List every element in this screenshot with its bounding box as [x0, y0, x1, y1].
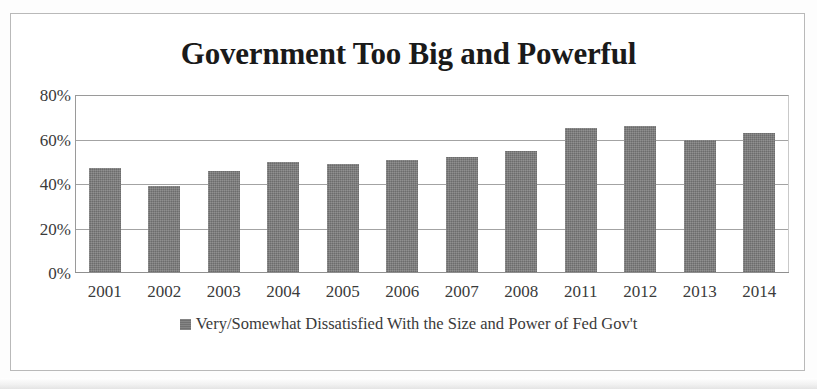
x-axis-labels: 2001200220032004200520062007200820112012… — [75, 278, 789, 302]
x-tick-label: 2001 — [75, 282, 135, 302]
y-tick-label: 0% — [13, 264, 71, 284]
x-tick-label: 2005 — [313, 282, 373, 302]
plot-border — [75, 95, 789, 273]
x-tick-label: 2014 — [730, 282, 790, 302]
y-tick-label: 60% — [13, 131, 71, 151]
y-tick-label: 80% — [13, 86, 71, 106]
legend-label: Very/Somewhat Dissatisfied With the Size… — [196, 314, 637, 334]
x-tick-label: 2004 — [254, 282, 314, 302]
x-tick-label: 2013 — [670, 282, 730, 302]
x-tick-label: 2003 — [194, 282, 254, 302]
x-axis-line — [75, 272, 789, 273]
chart-page: Government Too Big and Powerful 80%60%40… — [0, 0, 817, 389]
scan-edge — [0, 378, 817, 389]
y-tick-label: 20% — [13, 220, 71, 240]
legend-square-icon — [180, 319, 191, 330]
chart-legend: Very/Somewhat Dissatisfied With the Size… — [11, 314, 806, 334]
y-axis-labels: 80%60%40%20%0% — [11, 95, 71, 273]
chart-frame: Government Too Big and Powerful 80%60%40… — [10, 13, 805, 371]
x-tick-label: 2008 — [492, 282, 552, 302]
plot-area — [75, 95, 789, 273]
x-tick-label: 2002 — [135, 282, 195, 302]
x-tick-label: 2007 — [432, 282, 492, 302]
x-tick-label: 2006 — [373, 282, 433, 302]
x-tick-label: 2011 — [551, 282, 611, 302]
x-tick-label: 2012 — [611, 282, 671, 302]
chart-title: Government Too Big and Powerful — [11, 36, 806, 72]
y-tick-label: 40% — [13, 175, 71, 195]
